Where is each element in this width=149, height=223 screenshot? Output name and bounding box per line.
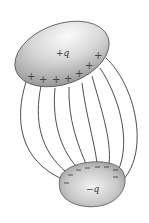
field-line (38, 86, 66, 172)
negative-charge-label: −q (86, 184, 100, 194)
field-line (82, 83, 97, 163)
diagram-canvas: +q + + + + + + + −q (0, 0, 149, 223)
plus-sign: + (75, 68, 83, 79)
positive-conductor: +q + + + + + + + (6, 9, 119, 99)
plus-sign: + (52, 74, 60, 85)
positive-charge-label: +q (56, 48, 70, 58)
field-line (21, 82, 62, 179)
plus-sign: + (64, 73, 72, 84)
plus-sign: + (94, 50, 102, 61)
plus-sign: + (85, 60, 93, 71)
negative-conductor: −q (59, 162, 125, 207)
plus-sign: + (39, 74, 47, 85)
plus-sign: + (27, 71, 35, 82)
field-line (69, 87, 86, 164)
